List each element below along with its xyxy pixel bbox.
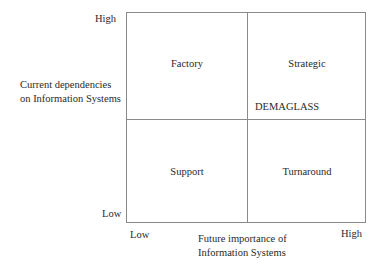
quadrant-support: Support	[127, 165, 247, 178]
x-axis-high-label: High	[341, 227, 362, 240]
y-axis-title-line2: on Information Systems	[20, 92, 121, 105]
y-axis-high-label: High	[95, 12, 116, 25]
x-axis-title-line1: Future importance of	[198, 232, 287, 245]
horizontal-divider	[127, 119, 365, 120]
vertical-divider	[247, 13, 248, 222]
quadrant-grid: Factory Strategic DEMAGLASS Support Turn…	[126, 12, 366, 223]
quadrant-turnaround: Turnaround	[247, 165, 367, 178]
quadrant-strategic: Strategic	[247, 57, 367, 70]
y-axis-low-label: Low	[102, 207, 121, 220]
x-axis-title-line2: Information Systems	[198, 246, 286, 259]
quadrant-factory: Factory	[127, 57, 247, 70]
demaglass-marker: DEMAGLASS	[255, 100, 319, 113]
x-axis-low-label: Low	[130, 228, 149, 241]
y-axis-title-line1: Current dependencies	[20, 78, 111, 91]
